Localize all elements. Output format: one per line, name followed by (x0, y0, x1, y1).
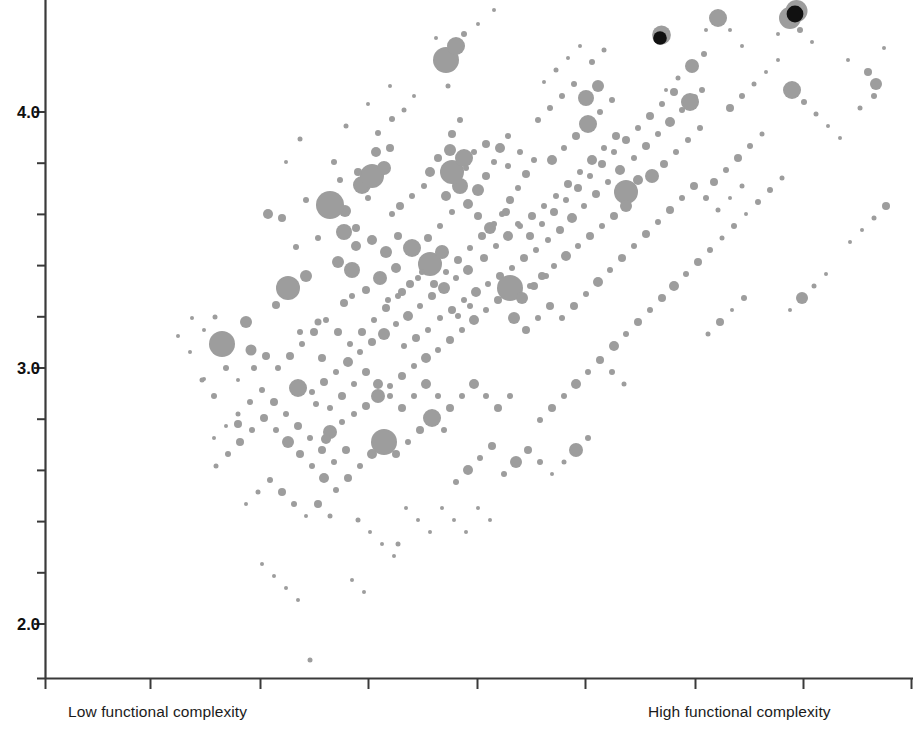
data-bubble (438, 282, 450, 294)
data-bubble (453, 479, 459, 485)
data-bubble (371, 147, 381, 157)
data-bubble (389, 211, 395, 217)
y-axis-tick-label-2: 2.0 (0, 615, 40, 634)
data-bubble (314, 500, 322, 508)
data-bubble (846, 58, 850, 62)
data-bubble (371, 317, 377, 323)
data-bubble (338, 392, 346, 400)
data-bubble (333, 487, 339, 493)
data-bubble (533, 247, 539, 253)
data-bubble (810, 40, 814, 44)
data-bubble (441, 191, 451, 201)
data-bubble (362, 590, 366, 594)
data-bubble (870, 78, 882, 90)
data-bubble (452, 518, 456, 522)
data-bubble (709, 9, 727, 27)
data-bubble (416, 518, 420, 522)
data-bubble (327, 405, 333, 411)
data-bubble (447, 37, 465, 55)
data-bubble (415, 275, 421, 281)
data-bubble (449, 209, 455, 215)
data-bubble (367, 449, 377, 459)
data-bubble (633, 175, 643, 185)
data-bubble (564, 180, 572, 188)
data-bubble (545, 237, 551, 243)
data-bubble (694, 258, 702, 266)
data-bubble (291, 501, 297, 507)
data-bubble (505, 163, 511, 169)
data-bubble (211, 393, 217, 399)
data-bubble (404, 506, 408, 510)
data-bubble (535, 315, 541, 321)
data-bubble (398, 372, 406, 380)
data-bubble (366, 102, 370, 106)
data-bubble (704, 28, 708, 32)
data-bubble (814, 112, 819, 117)
data-bubble (601, 145, 607, 151)
data-bubble (318, 446, 326, 454)
data-bubble (592, 80, 604, 92)
data-bubble (578, 90, 594, 106)
data-bubble (209, 331, 235, 357)
data-bubble (658, 294, 666, 302)
data-bubble (602, 48, 607, 53)
data-bubble (349, 293, 355, 299)
data-bubble (740, 44, 744, 48)
data-bubble (493, 243, 499, 249)
data-bubble (303, 197, 309, 203)
data-bubble (864, 68, 872, 76)
data-bubble (679, 195, 685, 201)
data-bubble (561, 145, 567, 151)
data-bubble (635, 125, 641, 131)
data-bubble (434, 36, 438, 40)
data-bubble (412, 334, 420, 342)
y-axis-tick-label-4: 4.0 (0, 103, 40, 122)
data-bubble (716, 208, 721, 213)
data-bubble (476, 22, 480, 26)
data-bubble (403, 311, 413, 321)
gray-bubble-layer (176, 7, 890, 663)
data-bubble (548, 404, 556, 412)
data-bubble (289, 379, 307, 397)
data-bubble (622, 136, 630, 144)
data-bubble (731, 223, 737, 229)
data-bubble (796, 292, 808, 304)
data-bubble (574, 184, 582, 192)
data-bubble (395, 293, 401, 299)
data-bubble (480, 254, 488, 262)
data-bubble (446, 336, 454, 344)
data-bubble (665, 117, 675, 127)
data-bubble (491, 221, 497, 227)
data-bubble (631, 243, 637, 249)
data-bubble (367, 235, 377, 245)
data-bubble (332, 256, 344, 268)
data-bubble (537, 417, 543, 423)
data-bubble (309, 463, 315, 469)
data-bubble (520, 254, 528, 262)
data-bubble (740, 184, 745, 189)
data-bubble (402, 108, 407, 113)
data-bubble (556, 226, 564, 234)
data-bubble (455, 313, 461, 319)
data-bubble (554, 68, 559, 73)
data-bubble (528, 212, 536, 220)
data-bubble (541, 203, 547, 209)
data-bubble (716, 318, 724, 326)
data-bubble (776, 58, 780, 62)
data-bubble (461, 31, 467, 37)
data-bubble (354, 168, 362, 176)
data-bubble (838, 136, 842, 140)
data-bubble (396, 542, 401, 547)
data-bubble (371, 389, 385, 403)
data-bubble (824, 272, 828, 276)
data-bubble (882, 202, 890, 210)
data-bubble (446, 404, 454, 412)
data-bubble (368, 338, 376, 346)
data-bubble (812, 284, 817, 289)
data-bubble (623, 331, 629, 337)
data-bubble (572, 132, 580, 140)
data-bubble (300, 270, 312, 282)
data-bubble (200, 378, 205, 383)
data-bubble (236, 412, 241, 417)
data-bubble (260, 414, 268, 422)
